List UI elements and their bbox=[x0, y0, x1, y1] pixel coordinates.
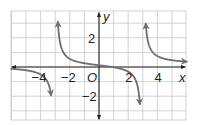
x-tick-label: 2 bbox=[125, 70, 132, 85]
origin-label: O bbox=[87, 70, 97, 85]
right-branch-curve bbox=[146, 24, 187, 62]
x-tick-label: −2 bbox=[61, 70, 76, 85]
graph: −4−2242−2Oxy bbox=[0, 0, 199, 125]
y-tick-label: 2 bbox=[88, 31, 95, 46]
y-tick-label: −2 bbox=[82, 89, 97, 104]
x-tick-label: −4 bbox=[32, 70, 47, 85]
x-axis-label: x bbox=[178, 70, 186, 85]
x-tick-label: 4 bbox=[154, 70, 161, 85]
